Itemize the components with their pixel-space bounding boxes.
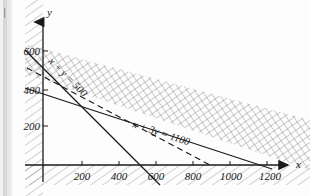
x-tick-label: 600 [148,170,165,182]
x-tick-label: 1000 [220,170,243,182]
page-edge-strip [0,0,13,196]
x-tick-label: 400 [111,170,128,182]
y-tick-label: 400 [24,84,41,96]
figure-container: 200 400 600 800 1000 1200 200 400 600 y … [0,0,310,196]
y-tick-label: 600 [24,45,41,57]
x-tick-label: 200 [74,170,91,182]
x-tick-label: 1200 [259,170,282,182]
y-axis-label: y [46,6,52,18]
graph-svg: 200 400 600 800 1000 1200 200 400 600 y … [0,0,310,196]
x-axis-label: x [295,158,301,170]
y-tick-label: 200 [24,120,41,132]
x-tick-label: 800 [185,170,202,182]
